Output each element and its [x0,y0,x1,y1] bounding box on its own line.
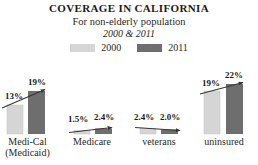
chart-plot-area: 13% 19% 1.5% 2.4% 2.4% 2.0% 19% 22% Medi… [0,57,258,165]
bar-uninsured-2011 [226,84,243,134]
bar-veterans-2000 [140,129,156,135]
legend-swatch-2000 [70,44,95,52]
legend-item-2011: 2011 [137,43,188,53]
category-label-medicare: Medicare [62,136,122,147]
chart-year-annotation: 2000 & 2011 [0,28,258,40]
category-label-uninsured: uninsured [194,136,254,147]
value-label-veterans-2000: 2.4% [134,113,154,122]
legend-item-2000: 2000 [70,43,121,53]
legend-swatch-2011 [137,44,162,52]
value-label-uninsured-2011: 22% [225,71,243,80]
legend-label-2000: 2000 [101,43,121,53]
chart-subtitle: For non-elderly population [0,16,258,28]
value-label-medicare-2011: 2.4% [94,113,114,122]
bar-medi-cal-2011 [28,91,45,134]
chart-header: COVERAGE IN CALIFORNIA For non-elderly p… [0,0,258,40]
chart-title: COVERAGE IN CALIFORNIA [0,2,258,15]
category-label-medi-cal: Medi-Cal (Medicaid) [0,136,55,158]
value-label-uninsured-2000: 19% [202,79,220,88]
bar-medi-cal-2000 [7,105,23,134]
bar-uninsured-2000 [204,91,220,134]
chart-container: COVERAGE IN CALIFORNIA For non-elderly p… [0,0,258,165]
chart-legend: 2000 2011 [0,43,258,53]
legend-label-2011: 2011 [168,43,188,53]
value-label-veterans-2011: 2.0% [160,113,180,122]
value-label-medi-cal-2000: 13% [5,92,23,101]
value-label-medicare-2000: 1.5% [68,115,88,124]
value-label-medi-cal-2011: 19% [28,78,46,87]
category-label-veterans: veterans [130,136,188,147]
